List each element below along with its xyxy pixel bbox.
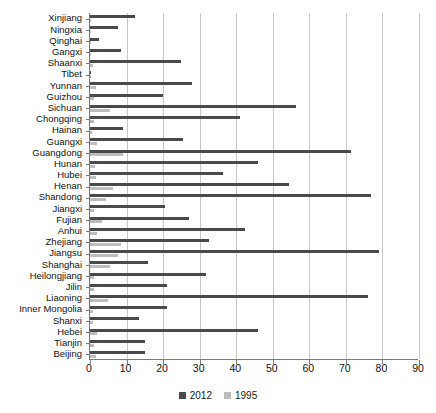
x-axis-tick-label: 50 <box>266 362 278 374</box>
bar-2012 <box>90 306 167 309</box>
gridline <box>419 13 420 359</box>
category-label: Gangxi <box>52 47 82 57</box>
gridline <box>382 13 383 359</box>
category-label: Beijing <box>53 349 82 359</box>
bar-2012 <box>90 239 209 242</box>
bar-2012 <box>90 217 189 220</box>
bar-1995 <box>90 53 91 56</box>
bar-1995 <box>90 321 93 324</box>
legend-swatch-1995 <box>224 392 231 399</box>
bar-1995 <box>90 355 96 358</box>
bar-2012 <box>90 38 99 41</box>
x-axis-tick-labels: 0102030405060708090 <box>89 362 429 378</box>
category-label: Liaoning <box>46 293 82 303</box>
category-label: Hebei <box>57 327 82 337</box>
bar-1995 <box>90 232 97 235</box>
bar-2012 <box>90 60 181 63</box>
bar-2012 <box>90 250 379 253</box>
category-label: Guangxi <box>47 137 82 147</box>
category-label: Qinghai <box>49 36 82 46</box>
bar-1995 <box>90 75 91 78</box>
category-axis-labels: XinjiangNingxiaQinghaiGangxiShaanxiTibet… <box>0 13 86 360</box>
bar-2012 <box>90 183 289 186</box>
bar-1995 <box>90 41 91 44</box>
bar-2012 <box>90 351 145 354</box>
category-label: Fujian <box>56 215 82 225</box>
category-label: Jilin <box>66 282 82 292</box>
category-label: Shaanxi <box>48 58 82 68</box>
chart-legend: 2012 1995 <box>0 390 436 401</box>
category-label: Chongqing <box>36 114 82 124</box>
bar-2012 <box>90 295 368 298</box>
x-axis-tick-label: 30 <box>193 362 205 374</box>
category-label: Hunan <box>54 159 82 169</box>
bar-1995 <box>90 220 102 223</box>
bar-1995 <box>90 120 94 123</box>
bar-1995 <box>90 30 91 33</box>
legend-swatch-2012 <box>179 392 186 399</box>
gridline <box>309 13 310 359</box>
bar-2012 <box>90 228 245 231</box>
bar-2012 <box>90 82 192 85</box>
bar-2012 <box>90 194 371 197</box>
legend-label-1995: 1995 <box>235 390 257 401</box>
category-label: Heilongjiang <box>30 271 82 281</box>
bar-2012 <box>90 49 121 52</box>
bar-1995 <box>90 86 96 89</box>
x-axis-tick-label: 70 <box>339 362 351 374</box>
category-label: Inner Mongolia <box>19 304 82 314</box>
category-label: Ningxia <box>50 25 82 35</box>
x-axis-tick-label: 80 <box>376 362 388 374</box>
bar-1995 <box>90 243 121 246</box>
bar-2012 <box>90 284 167 287</box>
category-label: Jiangxi <box>52 204 82 214</box>
category-label: Anhui <box>58 226 82 236</box>
category-label: Shanghai <box>42 260 82 270</box>
bar-2012 <box>90 71 91 74</box>
category-label: Shanxi <box>53 316 82 326</box>
bar-1995 <box>90 310 93 313</box>
bar-2012 <box>90 105 296 108</box>
category-label: Guangdong <box>32 148 82 158</box>
bar-1995 <box>90 344 94 347</box>
category-label: Yunnan <box>50 81 82 91</box>
bar-2012 <box>90 205 165 208</box>
bar-2012 <box>90 329 258 332</box>
bar-1995 <box>90 332 97 335</box>
category-label: Sichuan <box>48 103 82 113</box>
x-axis-tick-label: 40 <box>229 362 241 374</box>
bar-1995 <box>90 153 123 156</box>
category-label: Tibet <box>61 69 82 79</box>
bar-2012 <box>90 116 240 119</box>
bar-1995 <box>90 209 94 212</box>
category-label: Henan <box>54 181 82 191</box>
bar-2012 <box>90 273 206 276</box>
category-label: Jiangsu <box>49 248 82 258</box>
bar-1995 <box>90 109 110 112</box>
bar-1995 <box>90 187 113 190</box>
category-label: Hainan <box>52 125 82 135</box>
x-axis-tick-label: 10 <box>120 362 132 374</box>
category-label: Hubei <box>57 170 82 180</box>
bar-1995 <box>90 176 96 179</box>
bar-2012 <box>90 317 139 320</box>
category-label: Guizhou <box>47 92 82 102</box>
bar-2012 <box>90 127 123 130</box>
bar-1995 <box>90 265 110 268</box>
bar-2012 <box>90 138 183 141</box>
x-axis-tick-label: 0 <box>86 362 92 374</box>
x-axis-tick-label: 90 <box>412 362 424 374</box>
legend-item-1995: 1995 <box>224 390 257 401</box>
category-label: Xinjiang <box>48 13 82 23</box>
bar-1995 <box>90 299 108 302</box>
bar-1995 <box>90 64 93 67</box>
legend-label-2012: 2012 <box>190 390 212 401</box>
x-axis-tick-label: 60 <box>302 362 314 374</box>
gridline <box>346 13 347 359</box>
bar-2012 <box>90 94 163 97</box>
legend-item-2012: 2012 <box>179 390 212 401</box>
bar-2012 <box>90 150 351 153</box>
category-label: Zhejiang <box>46 237 82 247</box>
bar-1995 <box>90 276 94 279</box>
bar-1995 <box>90 19 91 22</box>
